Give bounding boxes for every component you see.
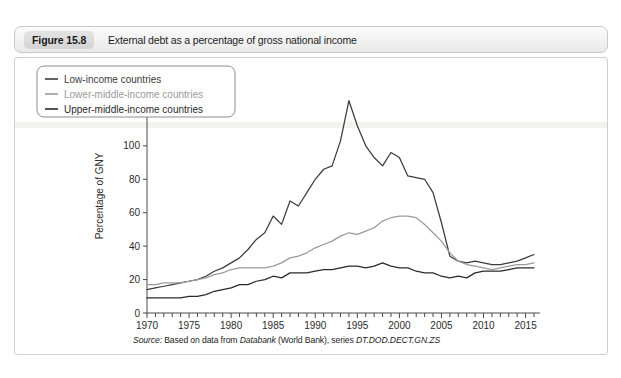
x-axis-tick-label: 2010 <box>472 320 495 331</box>
source-text-mid: (World Bank), series <box>276 335 356 345</box>
x-axis-tick-label: 2005 <box>430 320 453 331</box>
figure-header-bar: Figure 15.8 External debt as a percentag… <box>14 26 608 53</box>
line-chart: 020406080100120140Percentage of GNY19701… <box>15 58 607 354</box>
x-axis-tick-label: 1990 <box>304 320 327 331</box>
source-text-before: Based on data from <box>162 335 240 345</box>
series-line-1 <box>147 216 534 285</box>
x-axis-tick-label: 1970 <box>136 320 159 331</box>
source-databank: Databank <box>240 335 276 345</box>
y-axis-tick-label: 40 <box>129 241 141 252</box>
y-axis-title: Percentage of GNY <box>94 152 105 239</box>
legend-label-1: Lower-middle-income countries <box>64 89 203 100</box>
y-axis-tick-label: 80 <box>129 174 141 185</box>
figure-number-badge: Figure 15.8 <box>24 31 94 49</box>
x-axis-tick-label: 1995 <box>346 320 369 331</box>
y-axis-tick-label: 60 <box>129 207 141 218</box>
y-axis-tick-label: 0 <box>134 308 140 319</box>
x-axis-tick-label: 1980 <box>220 320 243 331</box>
series-line-0 <box>147 101 534 290</box>
legend-label-0: Low-income countries <box>64 74 161 85</box>
x-axis-tick-label: 2015 <box>514 320 537 331</box>
figure-caption: External debt as a percentage of gross n… <box>108 32 357 49</box>
chart-panel: 020406080100120140Percentage of GNY19701… <box>14 57 608 355</box>
x-axis-tick-label: 1975 <box>178 320 201 331</box>
x-axis-tick-label: 2000 <box>388 320 411 331</box>
source-note: Source: Based on data from Databank (Wor… <box>133 335 440 345</box>
legend-label-2: Upper-middle-income countries <box>64 104 203 115</box>
y-axis-tick-label: 100 <box>123 140 140 151</box>
x-axis-tick-label: 1985 <box>262 320 285 331</box>
source-lead: Source: <box>133 335 162 345</box>
source-series-code: DT.DOD.DECT.GN.ZS <box>356 335 440 345</box>
figure-container: Figure 15.8 External debt as a percentag… <box>0 0 621 378</box>
series-line-2 <box>147 263 534 298</box>
y-axis-tick-label: 20 <box>129 274 141 285</box>
